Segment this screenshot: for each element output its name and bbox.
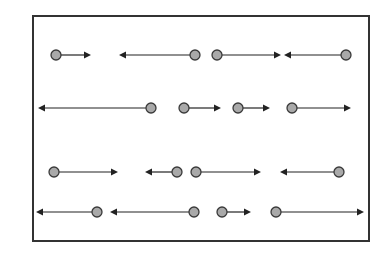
arrow-right-icon xyxy=(254,169,261,176)
particle-dot xyxy=(341,50,351,60)
arrow-left-icon xyxy=(284,52,291,59)
arrow-right-icon xyxy=(344,105,351,112)
particle-dot xyxy=(217,207,227,217)
particle xyxy=(51,50,91,60)
arrow-right-icon xyxy=(214,105,221,112)
particle-row-1 xyxy=(51,50,351,60)
particle-dot xyxy=(92,207,102,217)
particle-dot xyxy=(179,103,189,113)
particle xyxy=(145,167,182,177)
arrow-left-icon xyxy=(119,52,126,59)
particle-row-3 xyxy=(49,167,344,177)
particle xyxy=(49,167,118,177)
particle-row-4 xyxy=(36,207,364,217)
particle-dot xyxy=(334,167,344,177)
particle-velocity-diagram xyxy=(0,0,388,261)
particle-dot xyxy=(190,50,200,60)
diagram-frame xyxy=(33,16,369,241)
particle xyxy=(38,103,156,113)
arrow-right-icon xyxy=(357,209,364,216)
arrow-right-icon xyxy=(263,105,270,112)
particle-dot xyxy=(51,50,61,60)
arrow-right-icon xyxy=(244,209,251,216)
particle-row-2 xyxy=(38,103,351,113)
particle xyxy=(36,207,102,217)
particle-dot xyxy=(271,207,281,217)
particle xyxy=(191,167,261,177)
arrow-right-icon xyxy=(111,169,118,176)
arrow-left-icon xyxy=(145,169,152,176)
particle xyxy=(284,50,351,60)
arrow-left-icon xyxy=(110,209,117,216)
particle xyxy=(217,207,251,217)
particle xyxy=(280,167,344,177)
arrow-right-icon xyxy=(84,52,91,59)
arrow-right-icon xyxy=(274,52,281,59)
arrow-left-icon xyxy=(280,169,287,176)
particle-dot xyxy=(189,207,199,217)
particle xyxy=(212,50,281,60)
arrow-left-icon xyxy=(38,105,45,112)
particle-dot xyxy=(146,103,156,113)
particle-dot xyxy=(49,167,59,177)
particle xyxy=(110,207,199,217)
arrow-left-icon xyxy=(36,209,43,216)
particle-dot xyxy=(172,167,182,177)
particle xyxy=(233,103,270,113)
particle-dot xyxy=(233,103,243,113)
particle xyxy=(179,103,221,113)
particle-rows xyxy=(36,50,364,217)
particle-dot xyxy=(212,50,222,60)
particle xyxy=(287,103,351,113)
particle xyxy=(271,207,364,217)
particle-dot xyxy=(191,167,201,177)
particle xyxy=(119,50,200,60)
particle-dot xyxy=(287,103,297,113)
